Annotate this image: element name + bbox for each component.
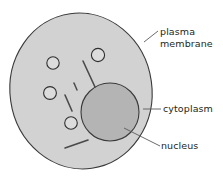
nucleus-circle — [81, 83, 139, 141]
vacuole-icon — [91, 48, 104, 61]
label-plasma-membrane-line1: plasma — [160, 26, 195, 37]
label-nucleus: nucleus — [161, 140, 198, 152]
vacuole-icon — [47, 57, 59, 69]
label-plasma-membrane-line2: membrane — [160, 38, 213, 50]
cell-diagram: plasma membrane cytoplasm nucleus — [0, 0, 223, 180]
plasma-membrane-outline — [0, 4, 162, 178]
label-plasma-membrane: plasma membrane — [160, 26, 213, 49]
vacuole-icon — [65, 117, 78, 130]
leader-line-plasma-membrane — [144, 31, 158, 42]
label-cytoplasm: cytoplasm — [163, 103, 213, 115]
vacuole-icon — [44, 87, 57, 100]
